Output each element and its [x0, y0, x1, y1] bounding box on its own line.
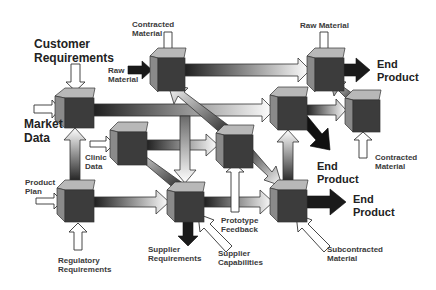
cube-d	[110, 122, 148, 165]
label-line: Product	[317, 173, 359, 186]
label-end-product-bottom: End Product	[353, 193, 395, 218]
label-contracted-material-right: Contracted Material	[375, 153, 417, 171]
label-line: Contracted	[132, 20, 174, 29]
label-end-product-top: End Product	[377, 58, 419, 83]
arrow-end-product-top-out	[344, 58, 370, 82]
label-line: Raw Material	[300, 21, 349, 30]
label-line: Feedback	[221, 225, 258, 234]
cube-j	[270, 180, 308, 222]
cube-g	[345, 90, 381, 132]
label-line: End	[353, 193, 395, 206]
label-subcontracted-material: Subcontracted Material	[327, 245, 383, 263]
arrow-regulatory-in	[69, 223, 87, 250]
label-line: Subcontracted	[327, 245, 383, 254]
label-line: Requirements	[58, 265, 111, 274]
cube-f	[270, 87, 308, 130]
label-line: Supplier	[218, 249, 263, 258]
label-line: Raw	[108, 66, 138, 75]
label-line: Product	[353, 206, 395, 219]
label-supplier-requirements: Supplier Requirements	[148, 245, 201, 263]
arrow-h-to-i	[94, 190, 169, 214]
label-product-plan: Product Plan	[25, 178, 55, 196]
cube-i	[167, 182, 205, 222]
arrow-j-to-f	[277, 130, 299, 184]
arrow-customer-requirements-in	[66, 64, 85, 91]
label-line: Market	[24, 118, 63, 132]
arrow-contracted-material-right-in	[354, 132, 372, 158]
arrow-f-to-g	[306, 99, 346, 121]
label-line: Data	[24, 132, 63, 146]
label-market-data: Market Data	[24, 118, 63, 146]
cube-h	[57, 180, 95, 222]
label-line: Prototype	[221, 216, 258, 225]
label-line: Product	[377, 71, 419, 84]
label-line: Material	[327, 254, 383, 263]
arrow-h-to-a	[64, 128, 86, 182]
label-line: Requirements	[148, 254, 201, 263]
label-regulatory-requirements: Regulatory Requirements	[58, 256, 111, 274]
arrow-supplier-requirements-out	[178, 220, 198, 246]
label-customer-requirements: Customer Requirements	[34, 38, 114, 66]
label-line: Clinic	[85, 153, 107, 162]
cube-e	[216, 125, 254, 168]
label-line: Supplier	[148, 245, 201, 254]
label-line: Plan	[25, 187, 55, 196]
label-contracted-material-top: Contracted Material	[132, 20, 174, 38]
label-line: Material	[375, 162, 417, 171]
label-clinic-data: Clinic Data	[85, 153, 107, 171]
label-line: Product	[25, 178, 55, 187]
cube-c	[307, 48, 345, 92]
label-end-product-mid: End Product	[317, 160, 359, 185]
label-prototype-feedback: Prototype Feedback	[221, 216, 258, 234]
label-raw-material-top: Raw Material	[300, 21, 349, 30]
arrow-end-product-bottom-out	[306, 189, 346, 215]
label-line: Regulatory	[58, 256, 111, 265]
label-line: Customer	[34, 38, 114, 52]
label-line: End	[377, 58, 419, 71]
label-line: Capabilities	[218, 258, 263, 267]
label-line: Material	[132, 29, 174, 38]
label-line: Material	[108, 75, 138, 84]
label-supplier-capabilities: Supplier Capabilities	[218, 249, 263, 267]
arrow-b-to-c	[184, 58, 310, 82]
label-line: Requirements	[34, 52, 114, 66]
label-line: Contracted	[375, 153, 417, 162]
label-line: End	[317, 160, 359, 173]
label-line: Data	[85, 162, 107, 171]
label-raw-material-left: Raw Material	[108, 66, 138, 84]
cube-b	[150, 48, 186, 92]
